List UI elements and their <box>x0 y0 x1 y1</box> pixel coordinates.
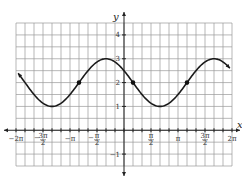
y-tick-label: 2 <box>116 79 120 87</box>
axes <box>4 12 240 176</box>
svg-text:2: 2 <box>203 139 207 147</box>
y-axis-up-arrow-icon <box>122 12 126 16</box>
x-axis-label: x <box>237 119 242 130</box>
svg-text:2: 2 <box>41 139 45 147</box>
y-axis-label: y <box>112 11 119 22</box>
sinusoid-graph: −2π−3π2−π−π2π2π3π22π 4321−1 y x <box>0 0 242 180</box>
x-tick-label: −3π2 <box>34 132 48 147</box>
svg-text:2: 2 <box>149 139 153 147</box>
x-tick-label: 2π <box>227 135 236 143</box>
marked-point <box>77 80 82 85</box>
y-tick-label: −1 <box>110 151 120 159</box>
y-tick-label: 1 <box>116 103 120 111</box>
marked-point <box>185 80 190 85</box>
x-tick-label: −π2 <box>88 132 100 147</box>
y-axis-down-arrow-icon <box>122 172 126 176</box>
x-tick-label: π2 <box>148 132 154 147</box>
x-tick-label: π <box>176 135 181 143</box>
x-tick-label: −2π <box>9 135 24 143</box>
x-tick-labels: −2π−3π2−π−π2π2π3π22π <box>9 132 237 147</box>
x-tick-label: −π <box>65 135 76 143</box>
x-axis-left-arrow-icon <box>4 128 8 132</box>
y-tick-label: 4 <box>116 31 121 39</box>
x-tick-label: 3π2 <box>200 132 209 147</box>
svg-text:−: − <box>88 134 94 142</box>
marked-point <box>131 80 136 85</box>
svg-text:2: 2 <box>95 139 99 147</box>
